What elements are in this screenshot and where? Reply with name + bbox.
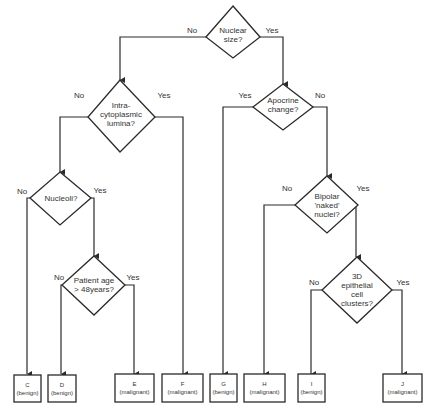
decision-text: > 48years?	[74, 285, 114, 294]
decision-text: nuclei?	[314, 210, 340, 219]
outcome-h: H (malignant)	[244, 374, 285, 402]
outcome-label: (benign)	[212, 389, 234, 395]
branch-label-yes: Yes	[396, 278, 409, 287]
decision-text: Bipolar	[315, 192, 340, 201]
branch-label-no: No	[282, 184, 293, 193]
decision-text: clusters?	[341, 299, 374, 308]
outcome-letter: C	[25, 382, 30, 388]
outcome-letter: D	[60, 382, 65, 388]
outcome-label: (malignant)	[167, 389, 197, 395]
outcome-label: (malignant)	[249, 389, 279, 395]
outcome-letter: J	[401, 381, 404, 387]
outcome-letter: E	[132, 381, 136, 387]
decision-tree-diagram: Nuclear size? No Yes Intra- cytoplasmic …	[0, 0, 437, 414]
decision-text: epithelial	[341, 281, 373, 290]
branch-label-yes: Yes	[126, 273, 139, 282]
branch-label-no: No	[54, 273, 65, 282]
branch-label-yes: Yes	[265, 26, 278, 35]
outcome-label: (benign)	[300, 389, 322, 395]
decision-nuclear-size: Nuclear size? No Yes	[187, 6, 279, 58]
outcome-d: D (benign)	[48, 375, 76, 402]
outcome-letter: G	[221, 381, 226, 387]
branch-label-yes: Yes	[356, 184, 369, 193]
decision-text: Patient age	[74, 276, 115, 285]
decision-text: Nucleoli?	[45, 194, 78, 203]
outcome-letter: H	[262, 381, 266, 387]
branch-label-yes: Yes	[93, 186, 106, 195]
branch-label-no: No	[74, 91, 85, 100]
decision-text: cell	[351, 290, 363, 299]
outcome-i: I (benign)	[298, 374, 325, 402]
outcome-j: J (malignant)	[383, 374, 422, 402]
outcome-letter: F	[181, 381, 185, 387]
branch-label-yes: Yes	[157, 91, 170, 100]
outcome-c: C (benign)	[14, 375, 41, 402]
decision-text: Nuclear	[219, 26, 247, 35]
decision-text: lumina?	[107, 119, 136, 128]
decision-text: Apocrine	[267, 96, 299, 105]
decision-text: 3D	[352, 272, 362, 281]
branch-label-no: No	[17, 187, 28, 196]
branch-label-no: No	[187, 26, 198, 35]
decision-intracytoplasmic-lumina: Intra- cytoplasmic lumina? No Yes	[74, 80, 171, 152]
outcome-label: (malignant)	[119, 389, 149, 395]
branch-label-no: No	[315, 91, 326, 100]
decision-text: cytoplasmic	[100, 110, 142, 119]
outcome-label: (benign)	[51, 390, 73, 396]
outcome-label: (benign)	[16, 390, 38, 396]
decision-text: Intra-	[112, 101, 131, 110]
decision-text: 'naked'	[315, 201, 340, 210]
branch-label-yes: Yes	[238, 91, 251, 100]
outcome-g: G (benign)	[210, 374, 237, 402]
outcome-f: F (malignant)	[162, 374, 203, 402]
outcome-e: E (malignant)	[115, 374, 154, 402]
outcome-label: (malignant)	[387, 389, 417, 395]
decision-text: change?	[268, 105, 299, 114]
decision-text: size?	[224, 35, 243, 44]
branch-label-no: No	[309, 278, 320, 287]
